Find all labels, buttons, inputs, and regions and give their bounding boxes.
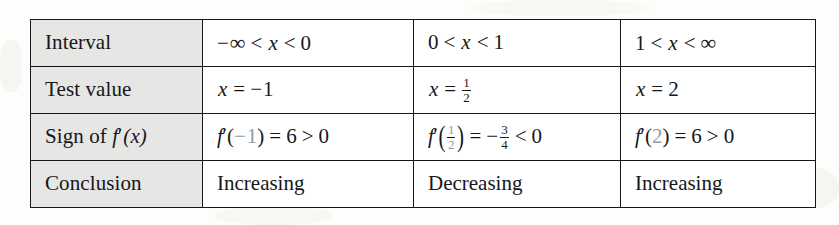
- interval-3-left-bound: 1: [635, 31, 646, 55]
- sign-3-relation: >: [702, 124, 724, 148]
- interval-2-relation-1: <: [439, 30, 461, 54]
- sign-2-equals: =: [464, 124, 486, 148]
- interval-cell-2: 0<x<1: [414, 20, 621, 67]
- interval-1-left-bound: ∞: [230, 30, 246, 55]
- table-row-interval: Interval −∞<x<0 0<x<1 1<x<∞: [31, 20, 816, 67]
- sign-1-arg-sign: −: [234, 124, 247, 148]
- test-value-1-variable: x: [217, 77, 228, 101]
- interval-2-variable: x: [460, 30, 471, 54]
- test-value-cell-3: x=2: [621, 67, 816, 114]
- test-value-cell-1: x=−1: [203, 67, 414, 114]
- interval-1-variable: x: [267, 31, 278, 55]
- sign-2-result-numerator: 3: [500, 123, 509, 137]
- scan-artifact: [214, 206, 334, 225]
- interval-2-left-bound: 0: [428, 30, 439, 54]
- sign-1-relation: >: [297, 124, 319, 148]
- sign-1-compare-to: 0: [318, 124, 329, 148]
- sign-2-arg-fraction: 12: [447, 123, 456, 151]
- sign-1-equals: =: [264, 124, 286, 148]
- interval-3-relation-2: <: [679, 31, 701, 55]
- sign-1-result: 6: [286, 124, 297, 148]
- conclusion-cell-2: Decreasing: [414, 161, 621, 208]
- sign-2-open-paren: (: [438, 120, 446, 153]
- test-value-2-equals: =: [439, 77, 461, 101]
- sign-3-result: 6: [691, 124, 702, 148]
- sign-cell-3: f′(2)=6>0: [621, 114, 816, 161]
- test-value-2-fraction: 12: [462, 76, 471, 104]
- test-value-2-denominator: 2: [462, 91, 471, 104]
- sign-2-compare-to: 0: [531, 124, 542, 148]
- interval-cell-3: 1<x<∞: [621, 20, 816, 67]
- test-value-cell-2: x=12: [414, 67, 621, 114]
- table-row-sign: Sign of f′(x) f′(−1)=6>0 f′(12)=−34<0 f′…: [31, 114, 816, 161]
- interval-2-relation-2: <: [472, 30, 494, 54]
- interval-1-relation-2: <: [279, 31, 301, 55]
- interval-3-variable: x: [667, 31, 678, 55]
- sign-3-compare-to: 0: [724, 124, 735, 148]
- sign-cell-2: f′(12)=−34<0: [414, 114, 621, 161]
- row-label-conclusion: Conclusion: [31, 161, 203, 208]
- sign-2-arg-denominator: 2: [447, 138, 456, 151]
- interval-2-right-bound: 1: [494, 30, 505, 54]
- first-derivative-test-table: Interval −∞<x<0 0<x<1 1<x<∞ Test value x…: [30, 19, 816, 208]
- interval-cell-1: −∞<x<0: [203, 20, 414, 67]
- sign-2-relation: <: [510, 124, 532, 148]
- row-label-sign: Sign of f′(x): [31, 114, 203, 161]
- sign-3-equals: =: [669, 124, 691, 148]
- sign-2-result-sign: −: [486, 124, 499, 148]
- conclusion-cell-1: Increasing: [203, 161, 414, 208]
- test-value-1-equals: =: [228, 77, 250, 101]
- sign-2-arg-numerator: 1: [447, 123, 456, 137]
- scanned-page: Interval −∞<x<0 0<x<1 1<x<∞ Test value x…: [0, 0, 839, 225]
- sign-2-result-fraction: 34: [500, 123, 509, 151]
- test-value-1-value: 1: [263, 77, 274, 101]
- row-label-sign-prefix: Sign of: [45, 124, 112, 148]
- row-label-interval: Interval: [31, 20, 203, 67]
- interval-1-negative-sign: −: [217, 31, 230, 55]
- test-value-3-value: 2: [668, 77, 679, 101]
- conclusion-cell-3: Increasing: [621, 161, 816, 208]
- interval-3-right-bound: ∞: [701, 30, 717, 55]
- test-value-3-equals: =: [646, 77, 668, 101]
- test-value-2-variable: x: [428, 77, 439, 101]
- sign-2-result-denominator: 4: [500, 138, 509, 151]
- table-row-test-value: Test value x=−1 x=12 x=2: [31, 67, 816, 114]
- interval-1-relation-1: <: [246, 31, 268, 55]
- sign-3-open-paren: (: [645, 124, 652, 148]
- test-value-1-negative-sign: −: [250, 77, 263, 101]
- row-label-test-value: Test value: [31, 67, 203, 114]
- sign-3-arg: 2: [652, 124, 663, 148]
- scan-artifact: [0, 40, 22, 92]
- sign-1-arg: 1: [247, 124, 258, 148]
- scan-artifact: [470, 0, 650, 16]
- interval-1-right-bound: 0: [301, 31, 312, 55]
- test-value-2-numerator: 1: [462, 76, 471, 90]
- sign-1-open-paren: (: [227, 124, 234, 148]
- sign-2-close-paren: ): [456, 120, 464, 153]
- test-value-3-variable: x: [635, 77, 646, 101]
- row-label-sign-arg: (x): [122, 124, 148, 148]
- table-row-conclusion: Conclusion Increasing Decreasing Increas…: [31, 161, 816, 208]
- interval-3-relation-1: <: [646, 31, 668, 55]
- sign-cell-1: f′(−1)=6>0: [203, 114, 414, 161]
